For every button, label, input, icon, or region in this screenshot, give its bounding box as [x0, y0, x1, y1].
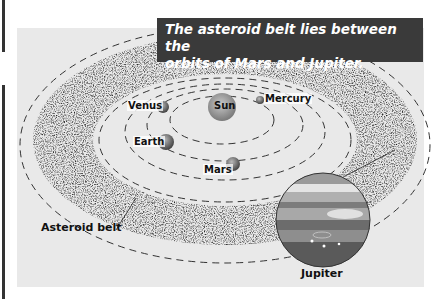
- caption-line-2: orbits of Mars and Jupiter.: [165, 55, 423, 72]
- mercury-label: Mercury: [264, 93, 312, 104]
- earth-label: Earth: [133, 136, 165, 147]
- jupiter-label: Jupiter: [300, 267, 344, 280]
- asteroid-belt-label: Asteroid belt: [40, 221, 123, 234]
- caption-box: The asteroid belt lies between the orbit…: [157, 18, 423, 62]
- venus-label: Venus: [127, 100, 163, 111]
- mars-label: Mars: [203, 164, 233, 175]
- sun-label: Sun: [213, 100, 236, 111]
- mercury-icon: [256, 96, 264, 104]
- caption-line-1: The asteroid belt lies between the: [165, 21, 423, 55]
